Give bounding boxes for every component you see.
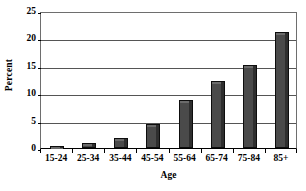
x-tick-label: 65-74 xyxy=(206,153,228,163)
bar-slot xyxy=(41,13,73,148)
bar-slot xyxy=(202,13,234,148)
bar[interactable] xyxy=(146,124,160,148)
bar-slot xyxy=(266,13,298,148)
bar[interactable] xyxy=(211,81,225,148)
y-tick-label: 10 xyxy=(27,89,37,99)
y-tick-label: 20 xyxy=(27,35,37,45)
bar-slot xyxy=(170,13,202,148)
y-tick-label: 5 xyxy=(31,117,36,127)
bar[interactable] xyxy=(114,138,128,148)
x-tick-label: 15-24 xyxy=(45,153,67,163)
y-tick-label: 25 xyxy=(27,7,37,17)
x-tick-label: 75-84 xyxy=(238,153,260,163)
bar[interactable] xyxy=(179,100,193,148)
bar[interactable] xyxy=(243,65,257,148)
bar-slot xyxy=(137,13,169,148)
x-axis-title: Age xyxy=(40,170,297,180)
bars-layer xyxy=(41,13,296,148)
y-tick-label: 15 xyxy=(27,62,37,72)
x-tick-label: 35-44 xyxy=(109,153,131,163)
x-tick-label: 85+ xyxy=(273,153,288,163)
bar-chart: Percent 0510152025 15-2425-3435-4445-545… xyxy=(0,0,306,191)
y-axis-title-label: Percent xyxy=(4,59,14,91)
plot-area xyxy=(40,12,297,149)
y-tick-label: 0 xyxy=(31,144,36,154)
x-axis-tick-labels: 15-2425-3435-4445-5455-6465-7475-8485+ xyxy=(40,153,297,167)
x-tick-label: 45-54 xyxy=(141,153,163,163)
y-axis-tick-labels: 0510152025 xyxy=(14,12,38,149)
bar[interactable] xyxy=(50,146,64,148)
bar-slot xyxy=(234,13,266,148)
bar[interactable] xyxy=(275,32,289,148)
bar[interactable] xyxy=(82,143,96,148)
bar-slot xyxy=(73,13,105,148)
bar-slot xyxy=(105,13,137,148)
x-tick-label: 25-34 xyxy=(77,153,99,163)
x-tick-label: 55-64 xyxy=(173,153,195,163)
